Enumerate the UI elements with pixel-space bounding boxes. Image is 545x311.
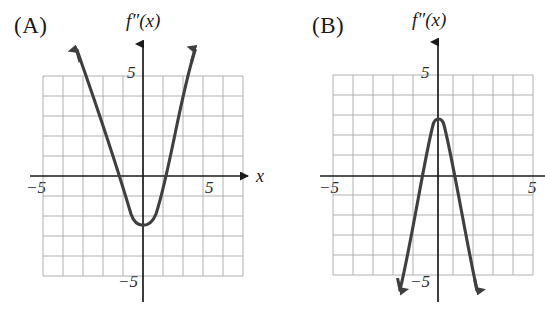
panel-b-curve-arrow-right: [474, 278, 477, 291]
panel-a-curve-arrow-right: [192, 49, 196, 62]
panel-a: (A) f″(x) x −5 5 5 −5: [0, 0, 272, 311]
panel-b: (B) f″(x) −5 5 5 −5: [272, 0, 544, 311]
panel-a-curve-arrow-left: [76, 49, 80, 62]
panel-b-plot: [272, 0, 545, 311]
panel-b-curve-arrow-left: [398, 278, 401, 291]
figure-two-parabola-graphs: (A) f″(x) x −5 5 5 −5: [0, 0, 545, 311]
panel-a-plot: [0, 0, 272, 311]
panel-b-gridlines: [333, 75, 533, 275]
